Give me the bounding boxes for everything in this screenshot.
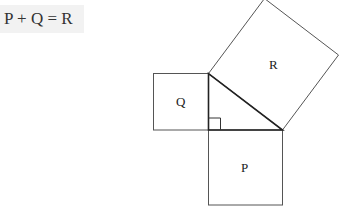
right-triangle bbox=[209, 74, 283, 131]
label-r: R bbox=[269, 57, 278, 72]
right-angle-marker bbox=[209, 118, 221, 130]
label-q: Q bbox=[176, 94, 186, 109]
pythagoras-diagram: Q P R bbox=[0, 0, 348, 211]
label-p: P bbox=[241, 160, 248, 175]
